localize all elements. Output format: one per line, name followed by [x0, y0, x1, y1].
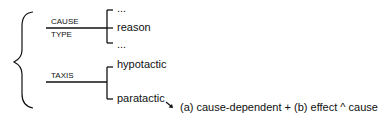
cause-label: CAUSE	[51, 18, 79, 26]
option-ellipsis-top: ...	[117, 3, 126, 14]
realization-statement: (a) cause-dependent + (b) effect ^ cause	[180, 102, 378, 113]
option-hypotactic: hypotactic	[117, 59, 167, 70]
left-brace	[14, 12, 33, 108]
option-ellipsis-bottom: ...	[117, 39, 126, 50]
option-paratactic: paratactic	[117, 93, 165, 104]
type-label: TYPE	[51, 31, 72, 39]
option-reason: reason	[117, 22, 151, 33]
taxis-label: TAXIS	[51, 72, 74, 80]
